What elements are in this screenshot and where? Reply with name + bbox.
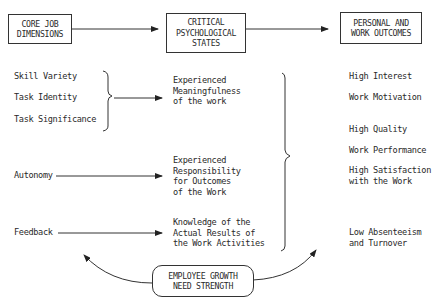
task-significance: Task Significance [14,114,96,125]
outcome-work-motivation: Work Motivation [349,92,421,103]
core-job-dimensions-box: CORE JOB DIMENSIONS [8,14,72,44]
right-brace [281,73,290,251]
outcome-high-quality: High Quality [349,124,407,135]
outcomes-label: PERSONAL AND WORK OUTCOMES [351,18,411,39]
feedback: Feedback [14,227,53,238]
outcome-low-absenteeism: Low Absenteeism and Turnover [349,227,421,248]
outcomes-box: PERSONAL AND WORK OUTCOMES [340,12,422,44]
curve-arrow-left [84,255,152,283]
knowledge-state: Knowledge of the Actual Results of the W… [173,217,265,249]
autonomy: Autonomy [14,170,53,181]
left-brace [103,71,112,131]
employee-growth-need-strength-box: EMPLOYEE GROWTH NEED STRENGTH [152,265,254,297]
core-job-dimensions-label: CORE JOB DIMENSIONS [17,19,63,40]
skill-variety: Skill Variety [14,71,77,82]
responsibility-state: Experienced Responsibility for Outcomes … [173,155,241,197]
meaningfulness-state: Experienced Meaningfulness of the work [173,75,241,107]
outcome-high-interest: High Interest [349,71,412,82]
curve-arrow-right [253,250,316,280]
task-identity: Task Identity [14,92,77,103]
critical-states-label: CRITICAL PSYCHOLOGICAL STATES [176,17,236,48]
outcome-high-satisfaction: High Satisfaction with the Work [349,165,431,186]
employee-growth-need-strength-label: EMPLOYEE GROWTH NEED STRENGTH [168,271,237,292]
critical-states-box: CRITICAL PSYCHOLOGICAL STATES [166,13,246,53]
outcome-work-performance: Work Performance [349,145,426,156]
